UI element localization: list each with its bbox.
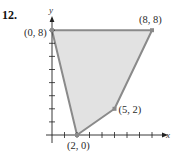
x-axis-label: x [165,130,170,140]
y-axis-label: y [48,5,53,15]
vertex-label: (5, 2) [119,104,142,116]
vertex-marker [75,133,79,137]
shaded-region [52,30,152,135]
feasible-region-chart: 12. (0, 8)(8, 8)(5, 2)(2, 0) x y [0,0,171,156]
vertex-label: (8, 8) [139,14,162,26]
vertex-marker [113,107,117,111]
problem-number: 12. [2,8,17,22]
region-polygon [52,30,152,135]
vertex-marker [50,28,54,32]
vertex-marker [150,28,154,32]
vertex-label: (0, 8) [24,27,47,39]
vertex-label: (2, 0) [67,140,90,152]
y-axis-arrow-icon [50,16,55,22]
